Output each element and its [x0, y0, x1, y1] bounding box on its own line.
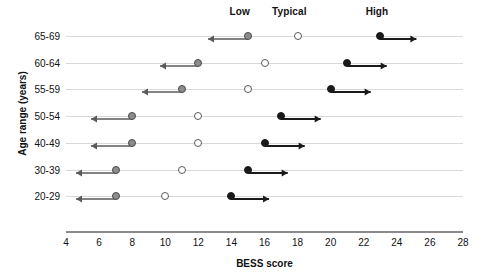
- x-axis-tick-label: 16: [259, 237, 270, 248]
- high-marker: [327, 85, 335, 93]
- y-axis-tick-label: 50-54: [4, 111, 60, 122]
- y-axis-tick-label: 55-59: [4, 84, 60, 95]
- x-axis-tick-label: 6: [96, 237, 102, 248]
- high-marker: [376, 32, 384, 40]
- high-marker: [227, 192, 235, 200]
- typical-marker: [194, 112, 202, 120]
- x-axis-tick-label: 12: [193, 237, 204, 248]
- x-axis-title: BESS score: [66, 258, 463, 269]
- x-axis-tick-label: 20: [325, 237, 336, 248]
- x-axis-tick-label: 10: [160, 237, 171, 248]
- high-marker: [244, 166, 252, 174]
- y-axis-tick-label: 20-29: [4, 191, 60, 202]
- typical-marker: [178, 166, 186, 174]
- bess-score-chart: Age range (years) LowTypicalHigh 65-6960…: [0, 0, 482, 279]
- y-axis-tick-label: 40-49: [4, 137, 60, 148]
- typical-marker: [261, 59, 269, 67]
- high-marker: [261, 139, 269, 147]
- low-marker: [194, 59, 202, 67]
- y-axis-tick-label: 65-69: [4, 31, 60, 42]
- high-marker: [277, 112, 285, 120]
- row-gridline: [66, 89, 463, 90]
- low-marker: [128, 112, 136, 120]
- x-axis-tick-label: 8: [129, 237, 135, 248]
- x-axis-line: [66, 231, 463, 233]
- high-marker: [343, 59, 351, 67]
- typical-marker: [194, 139, 202, 147]
- typical-marker: [244, 85, 252, 93]
- x-axis-tick-label: 4: [63, 237, 69, 248]
- x-axis-tick-label: 18: [292, 237, 303, 248]
- x-axis-tick-label: 22: [358, 237, 369, 248]
- typical-marker: [294, 32, 302, 40]
- low-marker: [244, 32, 252, 40]
- low-marker: [128, 139, 136, 147]
- x-axis-tick-label: 28: [457, 237, 468, 248]
- typical-marker: [161, 192, 169, 200]
- y-axis-tick-label: 30-39: [4, 164, 60, 175]
- low-marker: [178, 85, 186, 93]
- low-marker: [112, 192, 120, 200]
- x-axis-tick-label: 24: [391, 237, 402, 248]
- x-axis-tick-label: 26: [424, 237, 435, 248]
- y-axis-tick-label: 60-64: [4, 57, 60, 68]
- low-marker: [112, 166, 120, 174]
- plot-area: 65-6960-6455-5950-5440-4930-3920-29: [0, 0, 482, 279]
- x-axis-tick-label: 14: [226, 237, 237, 248]
